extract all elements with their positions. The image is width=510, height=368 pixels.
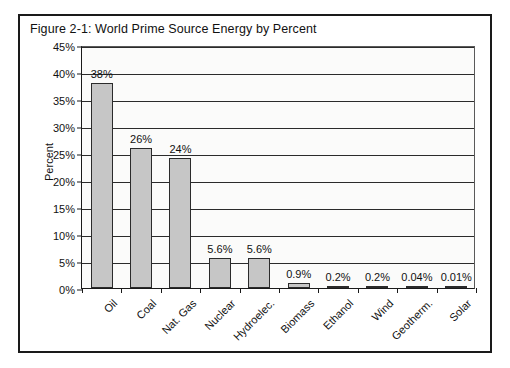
x-axis-label: Coal <box>134 297 158 321</box>
x-axis-label: Oil <box>101 297 119 315</box>
x-tick-mark <box>161 288 162 293</box>
bar[interactable] <box>169 158 191 288</box>
x-axis-label: Wind <box>369 297 395 323</box>
x-tick-mark <box>358 288 359 293</box>
bar[interactable] <box>327 286 349 288</box>
x-tick-mark <box>437 288 438 293</box>
x-axis-label: Geotherm. <box>389 297 434 342</box>
bar-value-label: 0.9% <box>286 268 311 280</box>
figure-frame: Figure 2-1: World Prime Source Energy by… <box>18 14 492 353</box>
bar-slot: 0.2% <box>318 47 357 288</box>
x-tick-mark <box>318 288 319 293</box>
bar[interactable] <box>366 286 388 288</box>
bar-value-label: 0.2% <box>365 271 390 283</box>
x-tick-mark <box>476 288 477 293</box>
bar-value-label: 26% <box>130 133 152 145</box>
bar-slot: 24% <box>161 47 200 288</box>
figure-title: Figure 2-1: World Prime Source Energy by… <box>30 22 317 36</box>
x-tick-mark <box>279 288 280 293</box>
x-tick-mark <box>121 288 122 293</box>
bar[interactable] <box>406 286 428 288</box>
y-tick-label: 35% <box>53 95 75 107</box>
x-axis-label: Solar <box>447 297 474 324</box>
y-tick-label: 40% <box>53 68 75 80</box>
bar-value-label: 38% <box>91 68 113 80</box>
bar[interactable] <box>288 283 310 288</box>
bar[interactable] <box>91 83 113 288</box>
y-tick-label: 15% <box>53 203 75 215</box>
x-tick-mark <box>397 288 398 293</box>
bar-value-label: 5.6% <box>207 243 232 255</box>
y-tick-label: 45% <box>53 41 75 53</box>
bar-value-label: 24% <box>169 143 191 155</box>
x-tick-mark <box>200 288 201 293</box>
bar-slot: 0.2% <box>358 47 397 288</box>
x-axis-label: Nat. Gas <box>159 297 198 336</box>
bar-slot: 0.04% <box>397 47 436 288</box>
bar[interactable] <box>209 258 231 288</box>
y-tick-label: 20% <box>53 176 75 188</box>
bar[interactable] <box>445 286 467 288</box>
bar-value-label: 5.6% <box>247 243 272 255</box>
bar-value-label: 0.2% <box>326 271 351 283</box>
bar-slot: 5.6% <box>200 47 239 288</box>
bar-slot: 0.01% <box>437 47 476 288</box>
y-tick-label: 0% <box>59 284 75 296</box>
x-axis-label: Ethanol <box>321 297 356 332</box>
x-axis-label: Biomass <box>278 297 316 335</box>
x-axis-label: Hydroelec. <box>231 297 277 343</box>
y-tick-label: 5% <box>59 257 75 269</box>
bar[interactable] <box>130 148 152 288</box>
bar[interactable] <box>248 258 270 288</box>
bar-slot: 0.9% <box>279 47 318 288</box>
plot-area: 0%5%10%15%20%25%30%35%40%45% 38%26%24%5.… <box>81 46 475 289</box>
y-tick-label: 10% <box>53 230 75 242</box>
x-axis-label: Nuclear <box>202 297 237 332</box>
bar-value-label: 0.04% <box>401 271 432 283</box>
y-tick-label: 30% <box>53 122 75 134</box>
y-tick-label: 25% <box>53 149 75 161</box>
bar-slot: 38% <box>82 47 121 288</box>
bar-slot: 26% <box>121 47 160 288</box>
bar-slot: 5.6% <box>240 47 279 288</box>
x-tick-mark <box>82 288 83 293</box>
x-tick-mark <box>240 288 241 293</box>
bar-value-label: 0.01% <box>441 271 472 283</box>
